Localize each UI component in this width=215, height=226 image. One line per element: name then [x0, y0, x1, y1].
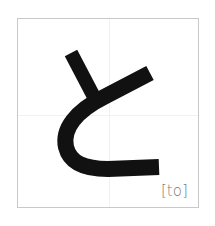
kana-stroke-2 [65, 73, 159, 169]
kana-card: [to] [17, 18, 199, 208]
romaji-label: [to] [161, 181, 188, 201]
kana-stroke-1 [71, 53, 93, 95]
